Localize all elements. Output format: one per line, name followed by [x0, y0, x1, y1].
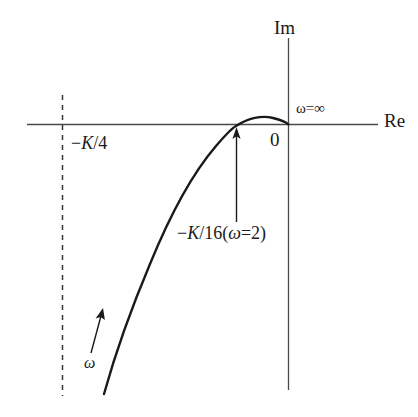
nyquist-locus-curve	[104, 117, 289, 394]
crossing-omega-value: =2)	[241, 223, 266, 243]
crossing-gain-symbol: K	[187, 223, 199, 243]
crossing-pointer-arrow	[232, 127, 240, 222]
omega-direction-arrow	[91, 308, 105, 353]
real-axis-label: Re	[384, 111, 405, 130]
crossing-value-label: −K/16(ω=2)	[177, 224, 266, 242]
crossing-minus-sign: −	[177, 223, 187, 243]
omega-direction-label: ω	[84, 355, 95, 371]
crossing-divisor: /16(	[199, 223, 228, 243]
asymptote-divisor: /4	[93, 133, 107, 153]
asymptote-value-label: −K/4	[71, 134, 107, 152]
nyquist-plot-figure: Im Re 0 −K/4 ω=∞ −K/16(ω=2) ω	[0, 0, 418, 417]
asymptote-gain-symbol: K	[81, 133, 93, 153]
nyquist-plot-canvas	[0, 0, 418, 417]
imaginary-axis-label: Im	[274, 18, 295, 37]
asymptote-minus-sign: −	[71, 133, 81, 153]
crossing-omega-symbol: ω	[228, 223, 241, 243]
origin-label: 0	[270, 130, 280, 149]
omega-infinity-label: ω=∞	[296, 101, 325, 116]
